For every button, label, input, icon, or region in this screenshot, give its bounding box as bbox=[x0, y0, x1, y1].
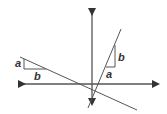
left-triangle-vertical-label: a bbox=[15, 57, 21, 69]
left-triangle-horizontal-label: b bbox=[34, 70, 41, 82]
right-slope-triangle: b a bbox=[106, 45, 125, 80]
diagram-canvas: a b b a bbox=[0, 0, 167, 114]
right-triangle-vertical-label: b bbox=[118, 51, 125, 63]
left-slope-triangle: a b bbox=[15, 57, 46, 82]
line-positive-slope bbox=[88, 29, 121, 108]
right-triangle-horizontal-label: a bbox=[106, 68, 112, 80]
